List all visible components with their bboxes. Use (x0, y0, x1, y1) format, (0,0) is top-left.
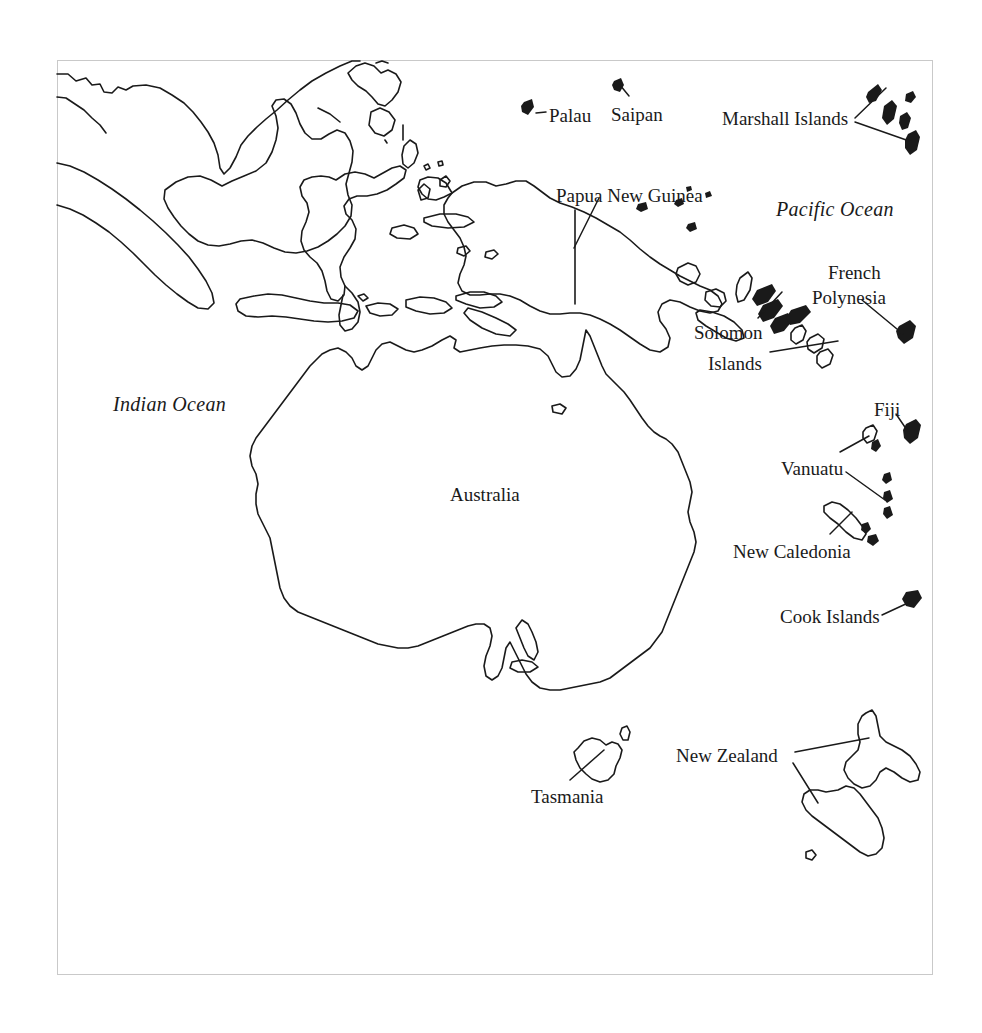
place-label-tasmania: Tasmania (531, 786, 604, 807)
place-label-papua-new-guinea: Papua New Guinea (556, 185, 703, 206)
place-label-fiji: Fiji (874, 399, 900, 420)
place-label-marshall-islands: Marshall Islands (722, 108, 848, 129)
map-page: Pacific Ocean Indian Ocean Palau Saipan … (0, 0, 982, 1033)
place-label-vanuatu: Vanuatu (781, 458, 843, 479)
ocean-label-pacific: Pacific Ocean (776, 198, 894, 220)
place-label-saipan: Saipan (611, 104, 663, 125)
place-label-solomon-line1: Solomon (694, 322, 763, 343)
place-label-cook-islands: Cook Islands (780, 606, 880, 627)
place-label-australia: Australia (450, 484, 520, 505)
place-label-french-polynesia-line2: Polynesia (812, 287, 886, 308)
place-label-new-caledonia: New Caledonia (733, 541, 851, 562)
place-label-palau: Palau (549, 105, 591, 126)
place-label-new-zealand: New Zealand (676, 745, 778, 766)
ocean-label-indian: Indian Ocean (113, 393, 226, 415)
place-label-french-polynesia-line1: French (828, 262, 881, 283)
place-label-solomon-line2: Islands (708, 353, 762, 374)
